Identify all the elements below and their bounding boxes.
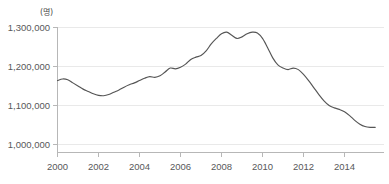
x-tick-label-2008: 2008 — [211, 161, 232, 172]
y-tick-label-1100000: 1,100,000 — [8, 100, 50, 111]
y-axis-unit-label: (명) — [40, 7, 53, 17]
x-tick-label-2006: 2006 — [170, 161, 191, 172]
x-tick-label-2014: 2014 — [334, 161, 355, 172]
y-tick-label-1200000: 1,200,000 — [8, 61, 50, 72]
y-tick-label-1300000: 1,300,000 — [8, 22, 50, 33]
x-axis-group: 2000 2002 2004 2006 2008 2010 2012 2014 — [47, 152, 384, 172]
x-tick-label-2002: 2002 — [88, 161, 109, 172]
data-series-line — [58, 32, 376, 127]
y-tick-label-1000000: 1,000,000 — [8, 139, 50, 150]
gridlines-group — [57, 28, 384, 145]
y-axis-group: 1,300,000 1,200,000 1,100,000 1,000,000 — [8, 22, 58, 152]
x-tick-label-2010: 2010 — [252, 161, 273, 172]
x-tick-label-2000: 2000 — [47, 161, 68, 172]
chart-canvas: 1,300,000 1,200,000 1,100,000 1,000,000 … — [0, 0, 389, 184]
x-tick-label-2004: 2004 — [129, 161, 150, 172]
line-chart-figure: 1,300,000 1,200,000 1,100,000 1,000,000 … — [0, 0, 389, 184]
x-tick-label-2012: 2012 — [293, 161, 314, 172]
